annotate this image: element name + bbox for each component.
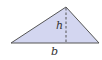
triangle-diagram: h b [0, 0, 102, 60]
triangle-shape [11, 7, 99, 43]
base-label: b [51, 45, 58, 58]
height-label: h [56, 19, 63, 32]
